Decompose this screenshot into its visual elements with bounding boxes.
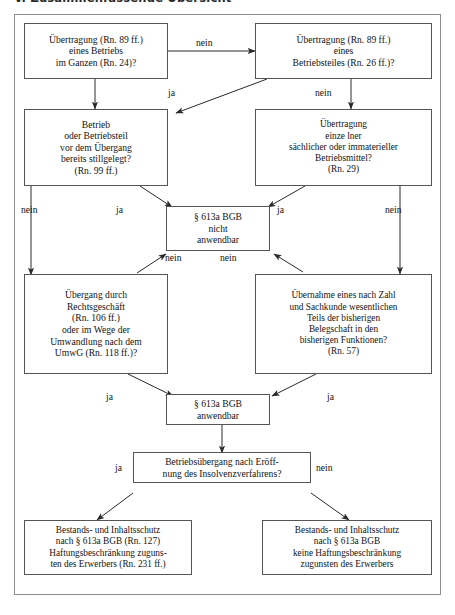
- node-ergebnis-insolvenz: Bestands- und Inhaltsschutz nach § 613a …: [24, 520, 192, 575]
- node-stillgelegt: Betrieb oder Betriebsteil vor dem Überga…: [24, 109, 168, 186]
- edge-label-ja-1: ja: [168, 88, 175, 98]
- node-ergebnis-normal: Bestands- und Inhaltsschutz nach § 613a …: [262, 520, 432, 575]
- edge-label-ja-4: ja: [106, 392, 113, 402]
- node-belegschaft: Übernahme eines nach Zahl und Sachkunde …: [255, 274, 432, 374]
- flowchart-page: V. Zusammenfassende Übersicht: [0, 0, 455, 615]
- node-uebertragung-betriebsteil: Übertragung (Rn. 89 ff.) eines Betriebst…: [255, 23, 432, 79]
- node-rechtsgeschaeft: Übergang durch Rechtsgeschäft (Rn. 106 f…: [24, 274, 168, 374]
- edge-label-ja-3: ja: [277, 205, 284, 215]
- node-betriebsmittel: Übertragung einze lner sächlicher oder i…: [255, 109, 432, 186]
- edge-label-nein-6: nein: [220, 253, 237, 263]
- edge-label-nein-1: nein: [196, 38, 213, 48]
- edge-label-nein-3: nein: [21, 205, 38, 215]
- node-nicht-anwendbar: § 613a BGB nicht anwendbar: [166, 206, 270, 251]
- edge-label-nein-7: nein: [316, 463, 333, 473]
- edge-label-nein-2: nein: [315, 88, 332, 98]
- section-heading: V. Zusammenfassende Übersicht: [14, 0, 434, 5]
- edge-label-ja-5: ja: [327, 392, 334, 402]
- edge-label-nein-4: nein: [385, 205, 402, 215]
- edge-label-ja-2: ja: [116, 205, 123, 215]
- node-anwendbar: § 613a BGB anwendbar: [166, 394, 270, 425]
- edge-label-ja-6: ja: [115, 463, 122, 473]
- node-insolvenz: Betriebsübergang nach Eröff- nung des In…: [133, 452, 311, 483]
- node-uebertragung-betrieb: Übertragung (Rn. 89 ff.) eines Betriebs …: [24, 23, 168, 79]
- edge-label-nein-5: nein: [165, 253, 182, 263]
